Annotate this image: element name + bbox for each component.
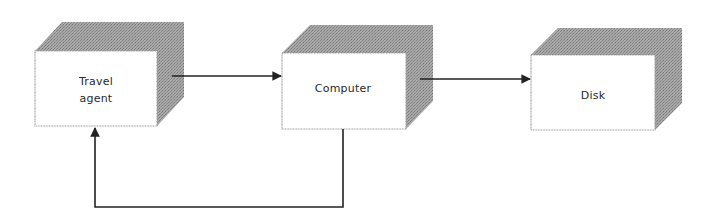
node-label-computer: Computer: [315, 80, 371, 97]
node-computer: [282, 25, 433, 129]
flow-diagram: [0, 0, 704, 222]
node-label-disk: Disk: [581, 87, 605, 104]
node-disk: [531, 28, 682, 130]
node-label-line-1: Travel: [79, 73, 113, 90]
arrow-computer-to-travel-agent-feedback: [95, 128, 343, 207]
node-label-line-2: agent: [79, 90, 113, 107]
node-label-travel-agent: Travel agent: [79, 73, 113, 107]
